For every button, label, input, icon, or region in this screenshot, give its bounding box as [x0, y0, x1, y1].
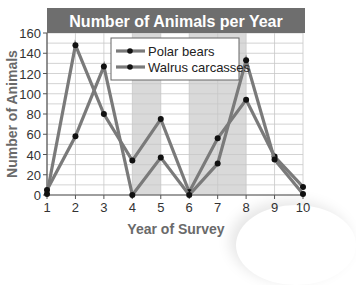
- y-tick-label: 80: [27, 107, 41, 122]
- y-tick-label: 140: [19, 46, 41, 61]
- y-tick-label: 160: [19, 26, 41, 41]
- title-banner: Number of Animals per Year: [47, 8, 305, 33]
- legend: Polar bearsWalrus carcasses: [111, 38, 251, 80]
- x-tick-label: 1: [43, 200, 50, 215]
- data-point: [101, 63, 107, 69]
- x-tick-label: 5: [157, 200, 164, 215]
- data-point: [158, 116, 164, 122]
- x-tick-label: 4: [129, 200, 136, 215]
- data-point: [44, 187, 50, 193]
- data-point: [272, 157, 278, 163]
- data-point: [186, 192, 192, 198]
- y-tick-label: 120: [19, 67, 41, 82]
- data-point: [72, 42, 78, 48]
- x-axis-label: Year of Survey: [127, 221, 224, 237]
- x-tick-label: 6: [186, 200, 193, 215]
- data-point: [129, 192, 135, 198]
- legend-label: Walrus carcasses: [148, 60, 251, 75]
- x-tick-label: 2: [72, 200, 79, 215]
- x-tick-label: 8: [242, 200, 249, 215]
- data-point: [129, 158, 135, 164]
- data-point: [215, 135, 221, 141]
- x-tick-label: 3: [100, 200, 107, 215]
- legend-marker: [127, 64, 133, 70]
- chart-title: Number of Animals per Year: [69, 13, 282, 30]
- y-tick-label: 20: [27, 168, 41, 183]
- y-tick-label: 60: [27, 127, 41, 142]
- x-tick-label: 7: [214, 200, 221, 215]
- legend-label: Polar bears: [148, 44, 215, 59]
- y-tick-label: 100: [19, 87, 41, 102]
- data-point: [215, 161, 221, 167]
- data-point: [300, 191, 306, 197]
- y-tick-label: 40: [27, 148, 41, 163]
- data-point: [243, 97, 249, 103]
- data-point: [158, 155, 164, 161]
- legend-marker: [127, 48, 133, 54]
- data-point: [72, 133, 78, 139]
- y-tick-label: 0: [34, 188, 41, 203]
- y-axis-label: Number of Animals: [4, 50, 20, 178]
- page-curl-shadow: [236, 205, 356, 285]
- data-point: [101, 111, 107, 117]
